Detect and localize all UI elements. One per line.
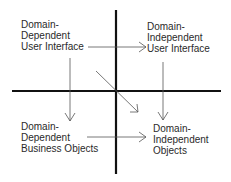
arrow-dd-ui-to-dd-bo — [65, 58, 75, 121]
label-line: User Interface — [21, 41, 84, 52]
label-line: Domain- — [153, 123, 209, 134]
label-domain-independent-ui: Domain- Independent User Interface — [147, 21, 210, 54]
label-line: Objects — [153, 145, 209, 156]
label-line: Independent — [153, 134, 209, 145]
label-line: Domain- — [21, 19, 84, 30]
label-line: Domain- — [21, 121, 98, 132]
label-line: Independent — [147, 32, 210, 43]
label-domain-dependent-ui: Domain- Dependent User Interface — [21, 19, 84, 52]
label-domain-dependent-business-objects: Domain- Dependent Business Objects — [21, 121, 98, 154]
label-line: Business Objects — [21, 143, 98, 154]
label-line: User Interface — [147, 43, 210, 54]
label-line: Domain- — [147, 21, 210, 32]
label-line: Dependent — [21, 132, 98, 143]
label-line: Dependent — [21, 30, 84, 41]
label-domain-independent-objects: Domain- Independent Objects — [153, 123, 209, 156]
